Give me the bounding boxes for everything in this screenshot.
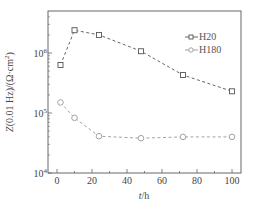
square-marker-icon [58, 63, 63, 68]
x-tick-label: 80 [192, 175, 202, 186]
circle-marker-icon [138, 135, 144, 141]
legend-item-h20: H20 [185, 31, 216, 42]
square-marker-icon [139, 49, 144, 54]
y-axis-ticks [48, 17, 52, 173]
svg-text:H180: H180 [199, 44, 221, 55]
x-axis-ticks [57, 169, 232, 173]
circle-marker-icon [58, 100, 64, 106]
square-marker-icon [97, 32, 102, 37]
svg-text:H20: H20 [199, 31, 216, 42]
square-marker-icon [72, 28, 77, 33]
x-tick-label: 40 [122, 175, 132, 186]
x-tick-label: 0 [55, 175, 60, 186]
x-tick-label: 20 [87, 175, 97, 186]
x-axis-tick-labels: 020406080100 [55, 175, 240, 186]
impedance-chart: 020406080100 104105106 t/h Z(0.01 Hz)/(Ω… [0, 0, 253, 205]
square-marker-icon [181, 72, 186, 77]
y-tick-label: 105 [34, 107, 48, 119]
y-tick-label: 104 [34, 167, 48, 179]
x-tick-label: 100 [225, 175, 240, 186]
circle-marker-icon [229, 134, 235, 140]
x-tick-label: 60 [157, 175, 167, 186]
x-axis-label: t/h [139, 190, 150, 201]
legend-item-h180: H180 [185, 44, 221, 55]
y-tick-label: 106 [34, 47, 48, 59]
circle-marker-icon [72, 115, 78, 121]
y-axis-label: Z(0.01 Hz)/(Ω·cm2) [3, 52, 16, 132]
square-marker-icon [230, 89, 235, 94]
legend: H20 H180 [185, 31, 221, 55]
series-h180 [58, 100, 235, 141]
circle-marker-icon [189, 48, 193, 52]
square-marker-icon [189, 35, 193, 39]
circle-marker-icon [96, 133, 102, 139]
y-axis-tick-labels: 104105106 [34, 47, 48, 179]
circle-marker-icon [180, 134, 186, 140]
